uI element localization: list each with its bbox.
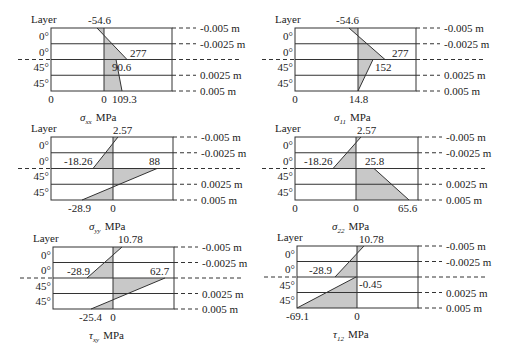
stress-value-label: 90.6 [112, 61, 132, 73]
layer-orientation-label: 45° [278, 170, 293, 182]
stress-value-label: -25.4 [79, 311, 102, 323]
layer-orientation-label: 0° [285, 248, 295, 260]
z-position-label: 0.0025 m [202, 288, 244, 300]
z-position-label: -0.0025 m [200, 38, 246, 50]
layer-orientation-label: 45° [280, 279, 295, 291]
layer-header: Layer [31, 122, 57, 134]
axis-zero-label: 0 [110, 202, 116, 214]
layer-orientation-label: 45° [280, 294, 295, 306]
stress-value-label: -54.6 [88, 14, 111, 26]
panel-sigma-xx: -0.005 m-0.0025 m0.0025 m0.005 mLayer0°0… [18, 13, 246, 126]
layer-orientation-label: 0° [39, 30, 49, 42]
stress-value-label: -18.26 [64, 155, 93, 167]
z-position-label: 0.0025 m [200, 69, 242, 81]
axis-title: τxyMPa [89, 329, 124, 344]
z-position-label: -0.0025 m [202, 257, 248, 269]
z-position-label: 0.0025 m [444, 69, 486, 81]
axis-zero-label: 0 [110, 311, 116, 323]
z-position-label: -0.005 m [444, 22, 484, 34]
layer-orientation-label: 0° [39, 46, 49, 58]
axis-left-zero-label: 0 [292, 202, 298, 214]
z-position-label: 0.005 m [202, 303, 239, 315]
stress-value-label: -28.9 [68, 202, 91, 214]
layer-orientation-label: 45° [34, 170, 49, 182]
axis-title: σxxMPa [80, 111, 117, 126]
stress-value-label: 88 [149, 155, 161, 167]
z-position-label: -0.0025 m [446, 256, 492, 268]
layer-orientation-label: 45° [36, 280, 51, 292]
layer-header: Layer [277, 231, 303, 243]
z-position-label: 0.005 m [446, 302, 483, 314]
layer-orientation-label: 0° [41, 264, 51, 276]
axis-left-zero-label: 0 [48, 93, 54, 105]
layer-orientation-label: 0° [283, 155, 293, 167]
layer-orientation-label: 0° [283, 46, 293, 58]
layer-header: Layer [31, 13, 57, 25]
z-position-label: -0.005 m [201, 131, 241, 143]
z-position-label: -0.005 m [202, 241, 242, 253]
layer-orientation-label: 45° [278, 77, 293, 89]
layer-orientation-label: 45° [34, 186, 49, 198]
layer-header: Layer [33, 232, 59, 244]
stress-value-label: 152 [375, 61, 392, 73]
layer-orientation-label: 0° [283, 139, 293, 151]
panel-tau-xy: -0.005 m-0.0025 m0.0025 m0.005 mLayer0°0… [20, 232, 248, 344]
layer-header: Layer [275, 122, 301, 134]
layer-header: Layer [275, 13, 301, 25]
layer-orientation-label: 0° [41, 249, 51, 261]
stress-value-label: 14.8 [349, 93, 369, 105]
layer-orientation-label: 0° [39, 155, 49, 167]
panel-sigma-22: -0.005 m-0.0025 m0.0025 m0.005 mLayer0°0… [262, 122, 492, 235]
panel-sigma-11: -0.005 m-0.0025 m0.0025 m0.005 mLayer0°0… [262, 13, 490, 126]
z-position-label: -0.005 m [446, 240, 486, 252]
z-position-label: 0.005 m [201, 194, 238, 206]
z-position-label: -0.0025 m [201, 147, 247, 159]
stress-value-label: 62.7 [150, 265, 170, 277]
layer-orientation-label: 45° [34, 61, 49, 73]
stress-value-label: 65.6 [398, 202, 418, 214]
z-position-label: 0.0025 m [446, 287, 488, 299]
stress-value-label: -0.45 [359, 278, 382, 290]
layer-orientation-label: 0° [283, 30, 293, 42]
axis-zero-label: 0 [353, 202, 359, 214]
layer-orientation-label: 0° [285, 263, 295, 275]
stress-value-label: -28.9 [309, 264, 332, 276]
z-position-label: 0.005 m [446, 194, 483, 206]
layer-orientation-label: 45° [278, 61, 293, 73]
stress-value-label: -69.1 [286, 310, 309, 322]
layer-orientation-label: 45° [34, 77, 49, 89]
z-position-label: 0.0025 m [446, 178, 488, 190]
z-position-label: -0.005 m [446, 131, 486, 143]
stress-value-label: -18.26 [304, 155, 333, 167]
axis-title: τ12MPa [333, 328, 369, 343]
stress-value-label: 277 [130, 47, 147, 59]
z-position-label: 0.005 m [444, 85, 481, 97]
stress-value-label: 277 [392, 47, 409, 59]
stress-value-label: 25.8 [365, 155, 385, 167]
stress-value-label: -28.9 [67, 265, 90, 277]
axis-zero-label: 0 [101, 93, 107, 105]
stress-value-label: 2.57 [113, 124, 133, 136]
layer-orientation-label: 0° [39, 139, 49, 151]
z-position-label: 0.005 m [200, 85, 237, 97]
z-position-label: -0.005 m [200, 22, 240, 34]
stress-value-label: 10.78 [118, 233, 143, 245]
stress-distribution-figure: -0.005 m-0.0025 m0.0025 m0.005 mLayer0°0… [0, 0, 506, 356]
layer-orientation-label: 45° [36, 295, 51, 307]
stress-value-label: -54.6 [336, 14, 359, 26]
stress-value-label: 109.3 [112, 93, 137, 105]
z-position-label: 0.0025 m [201, 178, 243, 190]
stress-value-label: 2.57 [357, 124, 377, 136]
z-position-label: -0.0025 m [446, 147, 492, 159]
layer-orientation-label: 45° [278, 186, 293, 198]
axis-left-zero-label: 0 [292, 93, 298, 105]
panel-sigma-yy: -0.005 m-0.0025 m0.0025 m0.005 mLayer0°0… [18, 122, 247, 235]
axis-zero-label: 0 [354, 310, 360, 322]
stress-value-label: 10.78 [359, 233, 384, 245]
z-position-label: -0.0025 m [444, 38, 490, 50]
stress-profiles-svg: -0.005 m-0.0025 m0.0025 m0.005 mLayer0°0… [0, 0, 506, 356]
panel-tau-12: -0.005 m-0.0025 m0.0025 m0.005 mLayer0°0… [264, 231, 492, 343]
